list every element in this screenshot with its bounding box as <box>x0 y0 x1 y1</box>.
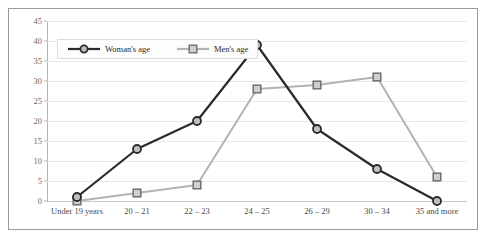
legend-swatch-circle-icon <box>67 43 101 55</box>
y-tick-label: 0 <box>38 197 42 206</box>
data-point-square <box>193 181 201 189</box>
x-tick-label: 24 – 25 <box>244 207 270 216</box>
data-point-square <box>253 85 261 93</box>
x-tick-label: 35 and more <box>416 207 459 216</box>
x-tick-label: Under 19 years <box>51 207 103 216</box>
gridline <box>47 201 467 202</box>
series-line <box>77 45 437 201</box>
y-tick-label: 25 <box>34 97 43 106</box>
data-point-square <box>373 73 381 81</box>
chart-legend: Woman's age Men's age <box>57 39 258 59</box>
y-tick-label: 30 <box>34 77 43 86</box>
legend-label-womans-age: Woman's age <box>105 45 150 54</box>
legend-swatch-square-icon <box>176 43 210 55</box>
data-point-circle <box>313 125 321 133</box>
data-point-circle <box>433 197 441 205</box>
x-tick-label: 26 – 29 <box>304 207 330 216</box>
data-point-circle <box>73 193 81 201</box>
data-point-circle <box>193 117 201 125</box>
data-point-circle <box>373 165 381 173</box>
legend-label-mens-age: Men's age <box>214 45 248 54</box>
y-tick-label: 40 <box>34 37 43 46</box>
data-point-square <box>433 173 441 181</box>
series-line <box>77 77 437 201</box>
y-tick-label: 15 <box>34 137 43 146</box>
data-point-square <box>133 189 141 197</box>
y-tick-label: 20 <box>34 117 43 126</box>
y-tick-label: 5 <box>38 177 42 186</box>
y-tick-label: 35 <box>34 57 43 66</box>
legend-item-mens-age: Men's age <box>176 43 248 55</box>
data-point-square <box>313 81 321 89</box>
y-tick-label: 45 <box>34 17 43 26</box>
chart-frame: 454035302520151050 Under 19 years20 – 21… <box>8 8 478 230</box>
x-tick-label: 30 – 34 <box>364 207 390 216</box>
data-point-circle <box>133 145 141 153</box>
x-tick-label: 20 – 21 <box>124 207 150 216</box>
x-tick-label: 22 – 23 <box>184 207 210 216</box>
y-tick-label: 10 <box>34 157 43 166</box>
legend-item-womans-age: Woman's age <box>67 43 150 55</box>
